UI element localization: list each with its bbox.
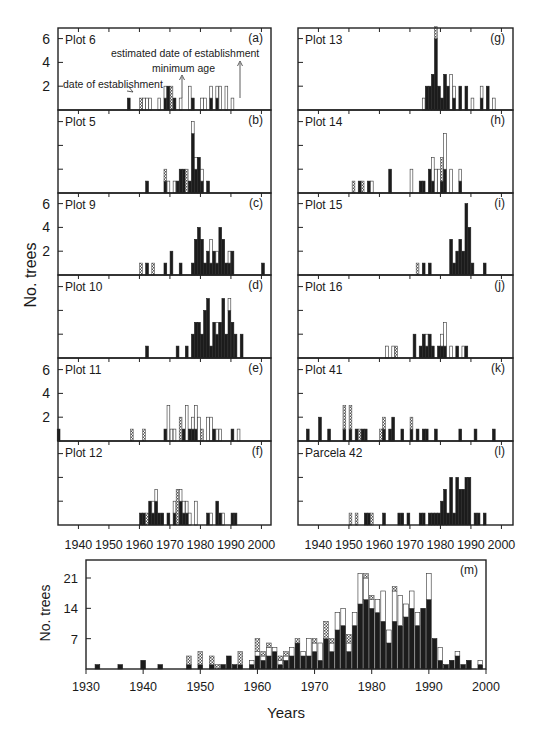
panel-e: 246Plot 11(e) — [42, 358, 271, 441]
bar-black — [480, 98, 483, 110]
bar-black — [419, 181, 422, 193]
bar-black — [431, 513, 434, 525]
y-tick-label: 4 — [42, 54, 50, 70]
bar-black — [471, 263, 474, 275]
panel-c: 246Plot 9(c) — [42, 193, 271, 275]
figure-canvas: 246Plot 6(a)Plot 5(b)246Plot 9(c)Plot 10… — [0, 0, 538, 739]
bar-black — [234, 513, 237, 525]
panel-k: Plot 41(k) — [298, 358, 513, 441]
bar-black — [262, 263, 265, 275]
bar-white — [201, 98, 204, 110]
panel-title: Plot 5 — [65, 115, 96, 129]
bar-black — [194, 169, 197, 193]
bar-black — [441, 181, 444, 193]
bar-black — [468, 227, 471, 275]
bar-hatched — [383, 417, 386, 429]
bar-black — [216, 334, 219, 358]
bar-hatched — [295, 639, 300, 643]
panel-title: Plot 6 — [65, 33, 96, 47]
panel-b: Plot 5(b) — [58, 110, 271, 193]
bar-hatched — [416, 263, 419, 275]
bar-black — [222, 299, 225, 359]
bar-black — [407, 513, 410, 525]
bar-white — [146, 98, 149, 110]
bar-black — [185, 513, 188, 525]
bar-black — [456, 477, 459, 525]
bar-black — [324, 639, 329, 669]
panel-letter: (c) — [249, 196, 263, 210]
x-tick-label: 1940 — [65, 538, 93, 552]
bar-black — [358, 604, 363, 669]
bar-black — [453, 263, 456, 275]
bar-black — [261, 660, 266, 669]
bar-white — [312, 643, 317, 652]
bar-black — [453, 98, 456, 110]
bar-black — [155, 501, 158, 525]
bar-black — [191, 134, 194, 194]
bar-black — [364, 600, 369, 669]
bar-black — [231, 429, 234, 441]
bar-white — [191, 417, 194, 429]
bar-white — [237, 429, 240, 441]
bar-hatched — [209, 656, 214, 665]
bar-black — [483, 513, 486, 525]
bar-white — [381, 591, 386, 621]
y-tick-label: 2 — [42, 78, 50, 94]
bar-hatched — [261, 652, 266, 656]
panel-title: Plot 41 — [305, 363, 343, 377]
bar-hatched — [347, 634, 352, 643]
bar-black — [432, 639, 437, 669]
panel-title: Plot 15 — [305, 198, 343, 212]
bar-black — [307, 656, 312, 669]
bar-black — [201, 239, 204, 275]
bar-black — [367, 181, 370, 193]
bar-hatched — [343, 405, 346, 429]
bar-black — [219, 513, 222, 525]
bar-white — [364, 578, 369, 600]
panel-letter: (i) — [494, 196, 505, 210]
bar-black — [421, 608, 426, 669]
bar-hatched — [140, 263, 143, 275]
bar-hatched — [355, 513, 358, 525]
bar-black — [428, 86, 431, 110]
bar-black — [434, 429, 437, 441]
bar-black — [444, 169, 447, 193]
bar-black — [328, 429, 331, 441]
bar-black — [428, 334, 431, 358]
panel-title: Parcela 42 — [305, 446, 363, 460]
panel-letter: (d) — [248, 278, 263, 292]
panel-letter: (j) — [494, 278, 505, 292]
x-tick-label: 2000 — [488, 538, 516, 552]
bar-white — [158, 98, 161, 110]
bar-black — [207, 251, 210, 275]
bar-black — [383, 429, 386, 441]
y-tick-label: 6 — [42, 31, 50, 47]
bar-hatched — [361, 181, 364, 193]
bar-black — [425, 429, 428, 441]
bar-black — [191, 98, 194, 110]
bar-black — [450, 239, 453, 275]
bar-black — [413, 334, 416, 358]
bar-white — [201, 169, 204, 181]
bar-white — [155, 489, 158, 501]
panel-g: Plot 13(g) — [298, 27, 513, 110]
bar-white — [194, 405, 197, 429]
bar-white — [170, 429, 173, 441]
bar-black — [459, 429, 462, 441]
bar-hatched — [185, 169, 188, 193]
panel-f: 1940195019601970198019902000Plot 12(f) — [58, 441, 275, 552]
bar-black — [149, 501, 152, 525]
bar-black — [213, 322, 216, 358]
bar-black — [444, 346, 447, 358]
bar-white — [352, 613, 357, 626]
bar-white — [347, 643, 352, 652]
y-tick-label: 2 — [42, 409, 50, 425]
bottom-y-axis-label: No. trees — [37, 585, 53, 642]
bar-black — [216, 263, 219, 275]
bar-black — [210, 346, 213, 358]
bar-black — [467, 660, 472, 669]
bar-black — [389, 429, 392, 441]
bar-white — [143, 98, 146, 110]
bar-black — [188, 181, 191, 193]
bar-black — [367, 513, 370, 525]
